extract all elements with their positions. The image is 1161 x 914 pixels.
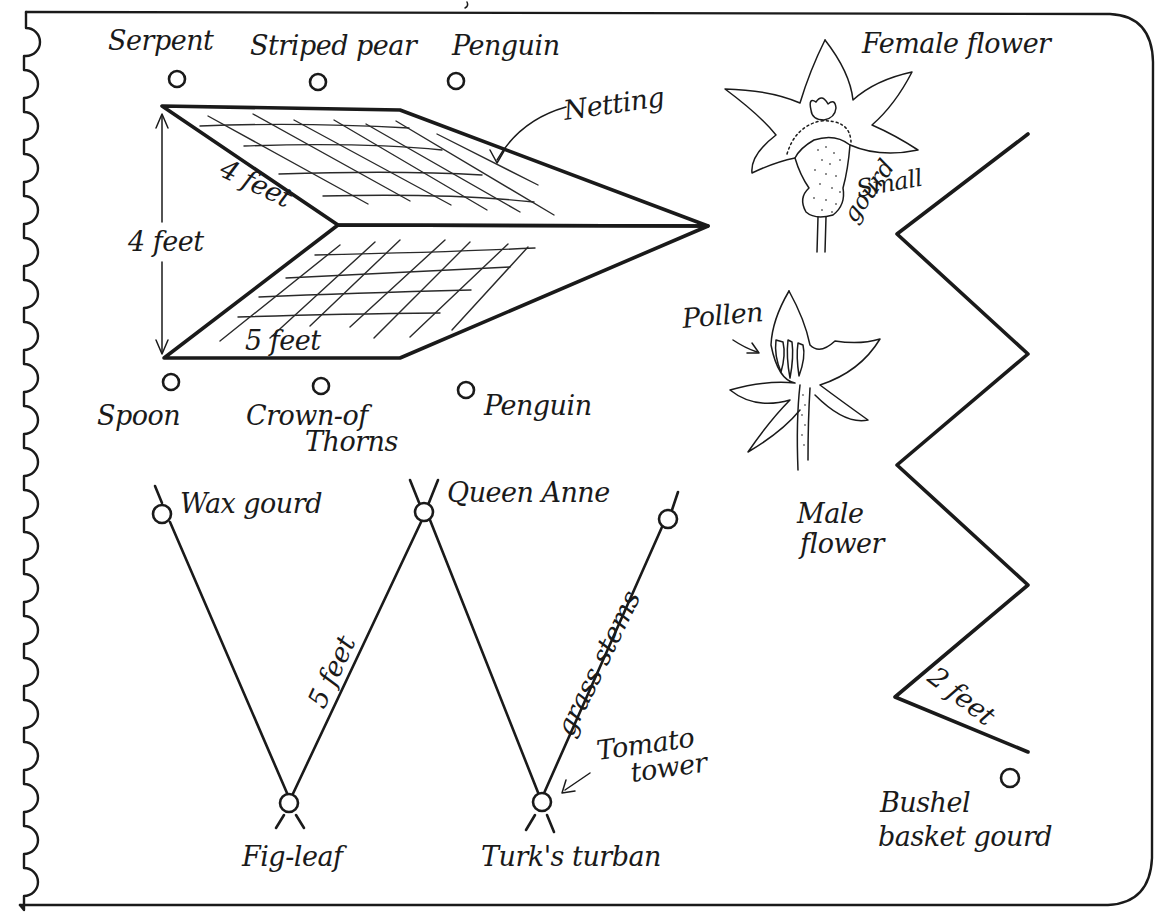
peg-penguin-top: [448, 73, 464, 89]
label-bushel: Bushel: [879, 787, 970, 818]
peg-crown-of-thorns: [313, 378, 329, 394]
label-flower: flower: [798, 528, 886, 559]
peg-striped-pear: [310, 74, 326, 90]
label-basket-gourd: basket gourd: [878, 821, 1052, 852]
zigzag-fence: 2 feet Bushel basket gourd: [878, 134, 1052, 852]
label-striped-pear: Striped pear: [250, 30, 419, 61]
tomato-tower-callout-arrow: [565, 773, 590, 790]
a-frame-trellis: Serpent Striped pear Penguin Netting 4 f…: [97, 25, 708, 457]
notebook-page-frame: [20, 2, 1153, 910]
label-pollen: Pollen: [680, 296, 764, 334]
label-netting: Netting: [561, 81, 667, 126]
male-flower-illustration: Pollen Male flower: [680, 291, 887, 559]
label-depth-4-feet: 4 feet: [214, 152, 297, 214]
label-spoon: Spoon: [97, 400, 180, 431]
label-male: Male: [796, 498, 863, 529]
label-thorns: Thorns: [305, 426, 398, 457]
label-5-feet: 5 feet: [301, 630, 361, 712]
peg-penguin-bottom: [458, 382, 474, 398]
scalloped-binding-edge: [20, 12, 40, 910]
label-wax-gourd: Wax gourd: [180, 488, 322, 519]
peg-fig-leaf: [280, 794, 298, 812]
male-stem-stipple: [801, 394, 806, 446]
peg-serpent: [169, 71, 185, 87]
peg-wax-gourd: [153, 505, 171, 523]
label-length-5-feet: 5 feet: [245, 325, 321, 356]
small-gourd-stipple: [813, 146, 841, 213]
peg-spoon: [163, 374, 179, 390]
label-serpent: Serpent: [108, 25, 214, 56]
w-trellis: Wax gourd Queen Anne 5 feet grass stems …: [153, 477, 711, 872]
female-flower-illustration: Female flower Small gourd: [725, 28, 1053, 252]
label-2-feet: 2 feet: [922, 660, 1002, 732]
label-penguin-top: Penguin: [451, 30, 560, 61]
peg-queen-anne: [415, 503, 433, 521]
label-penguin-bottom: Penguin: [483, 390, 592, 421]
peg-bushel-basket-gourd: [1001, 769, 1019, 787]
label-queen-anne: Queen Anne: [447, 477, 610, 508]
label-turks-turban: Turk's turban: [481, 841, 661, 872]
label-grass-stems: grass stems: [550, 586, 647, 741]
label-height-4-feet: 4 feet: [127, 226, 204, 257]
peg-turks-turban: [533, 793, 551, 811]
label-fig-leaf: Fig-leaf: [241, 841, 347, 872]
label-female-flower: Female flower: [861, 28, 1053, 59]
peg-grass-stems-top: [659, 510, 677, 528]
trellis-diagram-page: Serpent Striped pear Penguin Netting 4 f…: [0, 0, 1161, 914]
